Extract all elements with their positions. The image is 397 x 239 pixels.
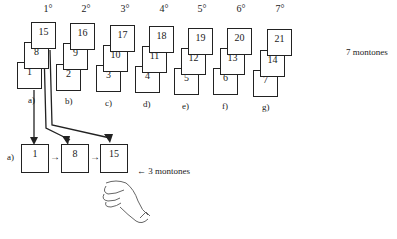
stack-label: d) [143, 99, 151, 109]
card: 21 [267, 29, 292, 56]
sequence-note: ← 3 montones [137, 166, 190, 176]
arrow-right-icon: → [50, 151, 60, 162]
sequence-card: 1 [21, 144, 49, 173]
stack-ordinal: 7° [270, 3, 290, 14]
stack-label: e) [182, 101, 189, 111]
stack-ordinal: 3° [115, 3, 135, 14]
sequence-card: 15 [100, 144, 128, 173]
stack-label: f) [222, 101, 228, 111]
stack-ordinal: 1° [38, 3, 58, 14]
stack-label: g) [262, 102, 270, 112]
card: 16 [70, 23, 95, 50]
stack-ordinal: 4° [154, 3, 174, 14]
stack-label: b) [65, 96, 73, 106]
sequence-label: a) [7, 152, 14, 162]
card: 15 [31, 22, 56, 49]
card: 18 [149, 26, 174, 53]
stack-ordinal: 2° [76, 3, 96, 14]
stack-ordinal: 5° [192, 3, 212, 14]
stacks-count-note: 7 montones [346, 47, 388, 57]
card: 20 [227, 28, 252, 55]
hand-icon [103, 181, 150, 223]
sequence-card: 8 [61, 144, 89, 173]
stack-label: a) [28, 95, 35, 105]
card: 17 [110, 25, 135, 52]
stack-label: c) [105, 98, 112, 108]
stack-ordinal: 6° [231, 3, 251, 14]
arrow-right-icon: → [90, 151, 100, 162]
card: 19 [188, 28, 213, 55]
